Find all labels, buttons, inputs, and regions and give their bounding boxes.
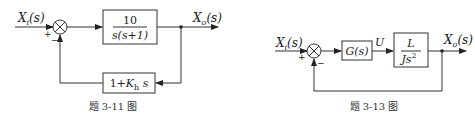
summing-junction-icon <box>307 44 321 58</box>
plus-sign: + <box>298 52 306 62</box>
input-label-xi: Xi(s) <box>17 11 45 27</box>
output-label-xo: Xo(s) <box>192 11 222 27</box>
minus-sign: − <box>51 35 59 45</box>
minus-sign: − <box>317 58 325 68</box>
plant-numerator: L <box>406 37 414 50</box>
feedback-expression: 1+Kh s <box>110 77 149 92</box>
controller-block: G(s) <box>342 41 372 60</box>
block-diagrams-canvas: Xi(s) + − 10 s(s+1) Xo(s) 1+Kh s <box>0 0 475 121</box>
numerator: 10 <box>123 14 137 27</box>
feedback-return <box>60 35 103 83</box>
plant-block: L Js2 <box>394 33 428 67</box>
diagram-3-11: Xi(s) + − 10 s(s+1) Xo(s) 1+Kh s <box>15 10 222 112</box>
controller-label: G(s) <box>345 45 368 58</box>
signal-label-u: U <box>375 36 385 49</box>
input-label-xi: Xi(s) <box>275 36 303 52</box>
caption-3-13: 题 3-13 图 <box>350 101 399 112</box>
output-label-xo: Xo(s) <box>443 33 473 49</box>
summing-junction-icon <box>53 20 67 34</box>
diagram-3-13: Xi(s) + − G(s) U L Js2 Xo(s) 题 3-13 图 <box>275 33 473 112</box>
forward-transfer-block: 10 s(s+1) <box>103 10 157 44</box>
feedback-path <box>156 27 181 83</box>
denominator: s(s+1) <box>112 29 148 42</box>
caption-3-11: 题 3-11 图 <box>89 101 138 112</box>
feedback-block: 1+Kh s <box>103 73 155 93</box>
